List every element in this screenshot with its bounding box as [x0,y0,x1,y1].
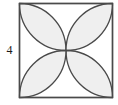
geometry-figure: 4 [0,0,118,105]
side-length-label: 4 [2,42,17,58]
rosette-in-square-svg [0,0,118,105]
